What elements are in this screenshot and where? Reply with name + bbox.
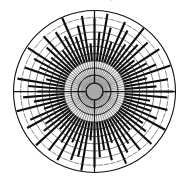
grid-tick — [73, 34, 78, 36]
grid-tick — [133, 28, 137, 31]
grid-tick — [114, 28, 119, 30]
grid-tick — [68, 21, 73, 23]
grid-tick — [35, 135, 38, 139]
grid-tick — [21, 101, 22, 106]
grid-tick — [52, 152, 56, 155]
grid-tick — [158, 73, 159, 78]
grid-tick — [151, 74, 152, 79]
grid-tick — [114, 154, 119, 156]
circular-barplot-figure: circular barplot — [0, 0, 190, 177]
grid-tick — [37, 126, 40, 130]
grid-tick — [163, 113, 165, 118]
grid-tick — [46, 53, 49, 57]
grid-tick — [161, 119, 163, 124]
grid-tick — [29, 73, 30, 78]
grid-tick — [111, 147, 116, 149]
radial-bar — [97, 32, 99, 61]
grid-tick — [127, 155, 132, 157]
grid-tick — [104, 164, 109, 165]
grid-tick — [31, 111, 33, 116]
grid-tick — [161, 59, 163, 64]
grid-tick — [52, 28, 56, 31]
grid-tick — [116, 160, 121, 162]
grid-tick — [151, 135, 154, 139]
polar-chart-canvas — [0, 0, 190, 177]
grid-tick — [52, 133, 56, 137]
grid-tick — [133, 133, 137, 137]
grid-tick — [74, 162, 79, 163]
grid-tick — [62, 158, 67, 160]
grid-tick — [149, 126, 152, 130]
grid-tick — [110, 19, 115, 20]
grid-tick — [143, 35, 147, 39]
grid-tick — [140, 53, 143, 57]
radial-bar — [90, 122, 92, 140]
center-hub-circle — [86, 83, 103, 100]
grid-tick — [56, 146, 60, 149]
grid-tick — [160, 100, 161, 105]
grid-tick — [155, 130, 158, 134]
grid-tick — [133, 152, 137, 155]
grid-tick — [52, 37, 56, 40]
grid-tick — [103, 157, 108, 158]
grid-tick — [165, 71, 166, 76]
grid-tick — [108, 26, 113, 27]
grid-tick — [167, 101, 168, 106]
grid-tick — [143, 144, 147, 148]
grid-tick — [74, 19, 79, 20]
grid-tick — [43, 144, 47, 148]
grid-tick — [65, 151, 70, 153]
radial-bar — [91, 43, 92, 61]
grid-tick — [110, 162, 115, 163]
grid-tick — [47, 32, 51, 35]
grid-tick — [145, 49, 148, 53]
grid-tick — [158, 54, 160, 59]
grid-tick — [26, 59, 28, 64]
grid-tick — [57, 25, 62, 27]
grid-tick — [68, 160, 73, 162]
grid-tick — [152, 58, 154, 63]
grid-tick — [61, 32, 66, 34]
grid-tick — [127, 25, 132, 27]
grid-tick — [36, 74, 37, 79]
grid-tick — [35, 44, 38, 48]
radial-bar — [125, 86, 156, 89]
grid-tick — [70, 28, 75, 30]
grid-tick — [28, 54, 30, 59]
grid-tick — [26, 119, 28, 124]
grid-tick — [24, 113, 26, 118]
grid-tick — [37, 108, 39, 113]
grid-tick — [28, 100, 29, 105]
grid-tick — [138, 41, 142, 45]
grid-tick — [40, 49, 43, 53]
grid-tick — [138, 139, 142, 143]
grid-tick — [68, 145, 73, 147]
grid-tick — [153, 99, 154, 104]
grid-tick — [38, 40, 42, 44]
grid-tick — [56, 43, 60, 46]
grid-tick — [31, 130, 34, 134]
grid-tick — [129, 146, 133, 149]
grid-tick — [129, 34, 133, 37]
grid-tick — [151, 44, 154, 48]
grid-tick — [40, 130, 43, 134]
grid-tick — [47, 139, 51, 143]
grid-tick — [22, 71, 23, 76]
grid-tick — [111, 34, 116, 36]
grid-tick — [125, 40, 129, 43]
grid-tick — [157, 111, 159, 116]
grid-tick — [32, 62, 34, 67]
grid-tick — [116, 21, 121, 23]
